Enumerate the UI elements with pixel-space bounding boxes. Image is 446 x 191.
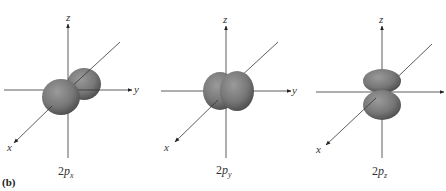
z-axis-label: z (223, 14, 227, 25)
z-axis-label: z (66, 12, 70, 23)
figure-part-label: (b) (2, 176, 15, 188)
x-axis (14, 106, 52, 143)
y-axis-label: y (134, 84, 139, 95)
x-axis-label: x (7, 142, 12, 153)
x-axis (175, 100, 218, 142)
orbital-label-2pz: 2pz (372, 165, 387, 180)
orbital-panel-2py: z y x 2py (148, 0, 298, 191)
orbital-panel-2px: z y x 2px (0, 0, 150, 191)
lobe-right (220, 71, 254, 111)
x-axis-label: x (164, 142, 169, 153)
z-axis-label: z (379, 14, 383, 25)
orbital-2px-diagram (0, 0, 150, 191)
orbital-panel-2pz: z x 2pz (296, 0, 446, 191)
lobe-upper (363, 69, 401, 93)
orbital-2pz-diagram (296, 0, 446, 191)
lobe-front (42, 79, 80, 115)
x-axis (326, 98, 376, 145)
orbital-label-2py: 2py (216, 164, 232, 179)
x-axis-label: x (316, 144, 321, 155)
orbital-label-2px: 2px (58, 165, 74, 180)
